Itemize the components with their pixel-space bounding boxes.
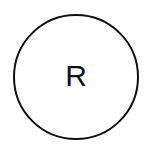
avatar-initial: R bbox=[65, 61, 87, 91]
avatar[interactable]: R bbox=[13, 14, 139, 140]
avatar-container: R bbox=[0, 0, 151, 151]
